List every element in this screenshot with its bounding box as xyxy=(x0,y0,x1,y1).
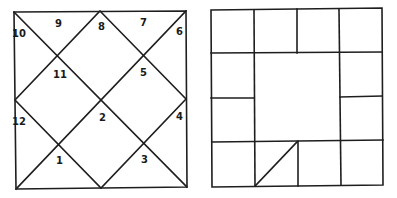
house-number-2: 2 xyxy=(99,112,106,123)
house-number-10: 10 xyxy=(12,28,26,39)
house-number-7: 7 xyxy=(140,17,147,28)
cell-diagonal xyxy=(255,142,297,186)
south-indian-chart xyxy=(211,8,383,187)
house-number-12: 12 xyxy=(12,116,26,127)
col-line-1 xyxy=(254,10,255,186)
house-number-4: 4 xyxy=(176,111,183,122)
col-line-3 xyxy=(339,9,341,185)
house-number-6: 6 xyxy=(176,26,183,37)
house-number-8: 8 xyxy=(98,21,105,32)
house-numbers: 123456789101112 xyxy=(12,17,183,166)
house-number-1: 1 xyxy=(56,155,63,166)
diagonal-tr-bl xyxy=(16,11,186,189)
diagram-canvas: 123456789101112 xyxy=(0,0,397,198)
right-col-divider xyxy=(340,96,382,97)
house-number-9: 9 xyxy=(55,18,62,29)
house-number-11: 11 xyxy=(53,69,67,80)
north-indian-chart: 123456789101112 xyxy=(12,11,187,189)
house-number-3: 3 xyxy=(141,154,148,165)
house-number-5: 5 xyxy=(140,67,147,78)
